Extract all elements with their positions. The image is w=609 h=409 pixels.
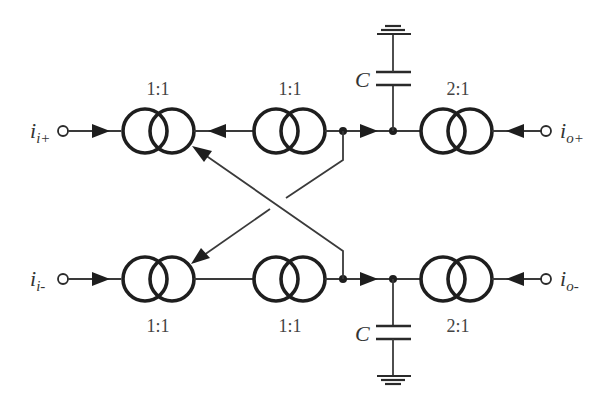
arrow-down-left-icon bbox=[191, 248, 210, 264]
current-mirror-bottom-3 bbox=[421, 257, 492, 301]
capacitor-bottom bbox=[376, 279, 411, 384]
arrow-right-icon bbox=[92, 124, 110, 138]
ratio-label: 2:1 bbox=[446, 316, 469, 336]
bottom-row bbox=[58, 257, 551, 384]
arrow-right-icon bbox=[360, 272, 378, 286]
arrow-up-left-icon bbox=[192, 146, 212, 162]
arrow-left-icon bbox=[208, 124, 226, 138]
ground-icon bbox=[377, 26, 411, 34]
arrow-left-icon bbox=[506, 124, 524, 138]
arrow-left-icon bbox=[506, 272, 524, 286]
capacitor-top bbox=[376, 26, 411, 131]
ratio-label: 1:1 bbox=[146, 316, 169, 336]
ratio-label: 1:1 bbox=[278, 316, 301, 336]
input-terminal-top bbox=[58, 126, 68, 136]
current-mirror-top-3 bbox=[421, 109, 492, 153]
output-terminal-bottom bbox=[541, 274, 551, 284]
input-terminal-bottom bbox=[58, 274, 68, 284]
ratio-label: 1:1 bbox=[278, 79, 301, 99]
capacitor-label: C bbox=[355, 321, 370, 346]
current-mirror-bottom-2 bbox=[254, 257, 325, 301]
current-mirror-top-2 bbox=[254, 109, 325, 153]
top-row bbox=[58, 26, 551, 153]
arrow-right-icon bbox=[92, 272, 110, 286]
ratio-label: 1:1 bbox=[146, 79, 169, 99]
circuit-diagram: 1:1 1:1 2:1 1:1 1:1 2:1 C C ii+ ii- io+ … bbox=[0, 0, 609, 409]
arrow-right-icon bbox=[360, 124, 378, 138]
output-terminal-top bbox=[541, 126, 551, 136]
current-mirror-top-1 bbox=[123, 109, 194, 153]
cross-coupling bbox=[191, 131, 343, 279]
ratio-label: 2:1 bbox=[446, 79, 469, 99]
capacitor-label: C bbox=[355, 67, 370, 92]
input-label-top: ii+ bbox=[30, 118, 50, 146]
output-label-bottom: io- bbox=[560, 266, 579, 294]
output-label-top: io+ bbox=[560, 118, 584, 146]
input-label-bottom: ii- bbox=[30, 266, 45, 294]
current-mirror-bottom-1 bbox=[123, 257, 194, 301]
ground-icon bbox=[377, 376, 411, 384]
